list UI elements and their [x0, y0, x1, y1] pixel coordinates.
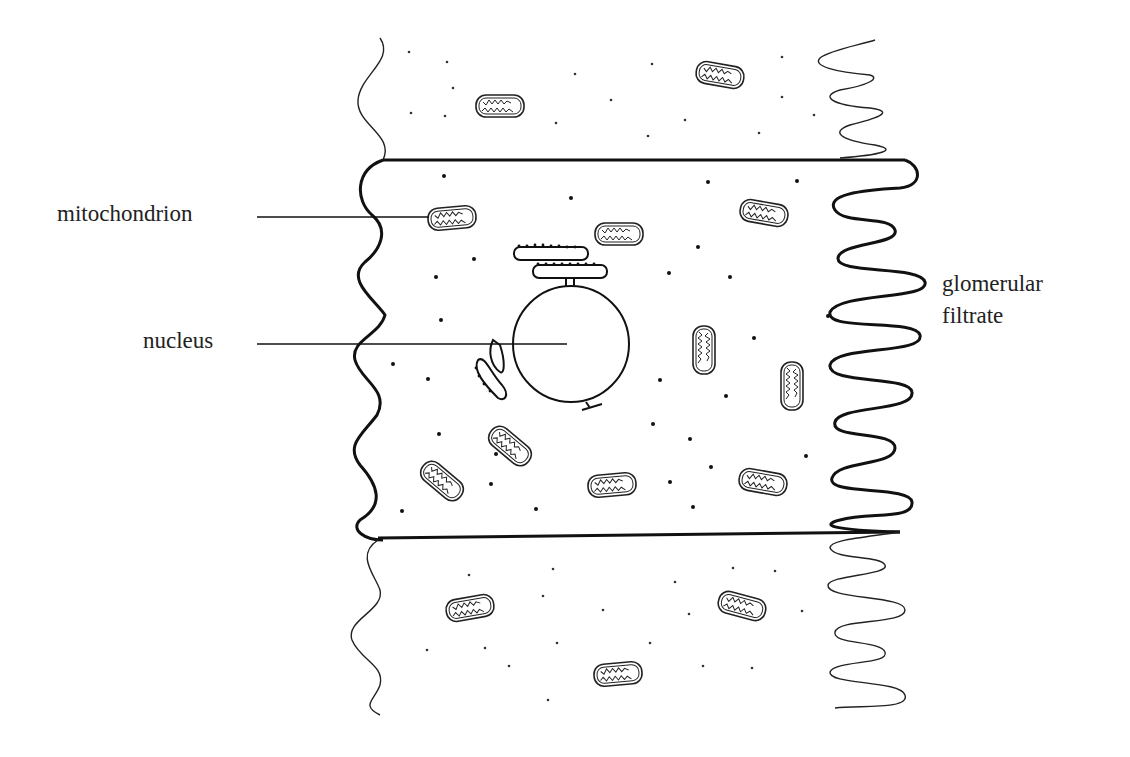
kidney-cell-diagram [0, 0, 1130, 757]
cell-bottom-membrane [378, 532, 900, 538]
bottom-cell-left-membrane [351, 540, 380, 715]
label-nucleus: nucleus [143, 327, 213, 355]
label-mitochondrion: mitochondrion [57, 200, 192, 228]
top-cell-left-membrane [358, 38, 385, 160]
bottom-cell-microvilli [828, 532, 905, 708]
label-filtrate: filtrate [942, 302, 1003, 330]
brush-border-microvilli [830, 160, 925, 532]
label-glomerular: glomerular [942, 270, 1043, 298]
top-cell-microvilli [818, 40, 886, 158]
